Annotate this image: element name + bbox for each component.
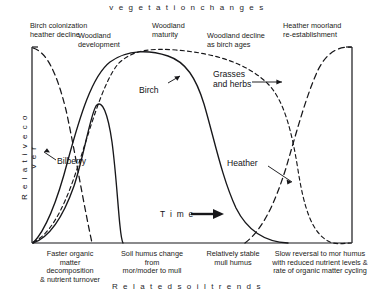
right-arrow-icon	[191, 209, 224, 219]
curve-label-heather: Heather	[227, 158, 258, 168]
curve-label-bilberry: Bilberry	[57, 156, 86, 166]
leader-lines	[44, 76, 292, 185]
leader-heather	[268, 166, 292, 182]
stage-annotation-woodland-development: Woodland development	[78, 32, 142, 49]
stage-annotation-heather-moorland: Heather moorland re-establishment	[283, 22, 369, 39]
leader-bilberry-arrowhead	[44, 148, 50, 152]
succession-diagram: v e g e t a t i o n c h a n g e s R e l …	[0, 0, 374, 302]
time-axis-label: T i m e	[160, 209, 195, 219]
curve-label-birch: Birch	[139, 85, 159, 95]
chart-title-bottom: R e l a t e d s o i l t r e n d s	[0, 282, 374, 291]
leader-grasses-arrowhead	[276, 80, 282, 85]
stage-annotation-woodland-decline: Woodland decline as birch ages	[207, 32, 285, 49]
curve-label-grasses-and-herbs: Grasses and herbs	[213, 69, 251, 89]
soil-annotation-relatively-stable-mull: Relatively stable mull humus	[196, 250, 270, 267]
soil-annotation-faster-organic-matter: Faster organic matter decomposition & nu…	[32, 250, 108, 284]
soil-annotation-soil-humus-change: Soil humus change from mor/moder to mull	[110, 250, 194, 276]
soil-annotation-slow-reversal-mor: Slow reversal to mor humus with reduced …	[266, 250, 374, 276]
leader-bilberry	[44, 152, 56, 160]
